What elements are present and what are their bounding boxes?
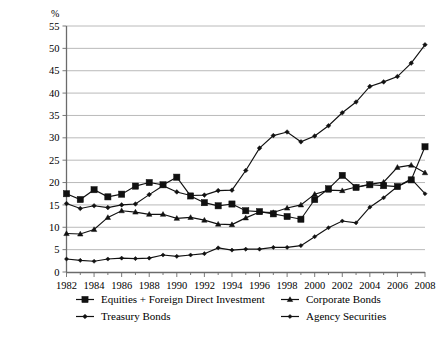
- data-marker-square: [422, 144, 428, 150]
- y-tick-label: 55: [49, 21, 60, 32]
- data-marker-square: [146, 179, 152, 185]
- x-tick-label: 2002: [332, 280, 353, 291]
- data-marker-square: [82, 296, 88, 302]
- data-marker-square: [229, 201, 235, 207]
- y-tick-label: 15: [49, 200, 60, 211]
- legend-item-label: Treasury Bonds: [101, 310, 171, 322]
- y-tick-label: 5: [54, 244, 59, 255]
- y-tick-label: 25: [49, 155, 60, 166]
- legend-item[interactable]: Equities + Foreign Direct Investment: [76, 293, 265, 305]
- x-tick-label: 1990: [166, 280, 187, 291]
- x-tick-label: 1986: [111, 280, 132, 291]
- x-tick-label: 1998: [277, 280, 298, 291]
- chart-container: % 0510152025303540455055 198219841986198…: [0, 0, 440, 340]
- x-tick-label: 2000: [304, 280, 325, 291]
- y-tick-label: 10: [49, 222, 60, 233]
- data-marker-square: [77, 196, 83, 202]
- data-marker-square: [215, 203, 221, 209]
- y-tick-label: 50: [49, 43, 60, 54]
- data-marker-square: [174, 174, 180, 180]
- legend-item-label: Agency Securities: [306, 310, 386, 322]
- data-marker-square: [91, 187, 97, 193]
- data-marker-square: [132, 183, 138, 189]
- data-marker-square: [298, 216, 304, 222]
- x-tick-label: 1992: [194, 280, 215, 291]
- y-tick-label: 40: [49, 88, 60, 99]
- data-marker-square: [63, 191, 69, 197]
- y-tick-label: 20: [49, 177, 60, 188]
- data-marker-square: [243, 208, 249, 214]
- x-tick-label: 1988: [139, 280, 160, 291]
- line-chart: % 0510152025303540455055 198219841986198…: [0, 0, 440, 340]
- y-tick-label: 45: [49, 65, 60, 76]
- data-marker-square: [284, 213, 290, 219]
- legend-item-label: Corporate Bonds: [306, 293, 381, 305]
- x-tick-label: 2006: [387, 280, 408, 291]
- data-marker-square: [119, 191, 125, 197]
- x-tick-label: 2008: [415, 280, 436, 291]
- y-tick-label: 30: [49, 132, 60, 143]
- x-tick-label: 2004: [359, 280, 381, 291]
- data-marker-square: [105, 194, 111, 200]
- x-tick-label: 1996: [249, 280, 270, 291]
- x-tick-label: 1984: [84, 280, 106, 291]
- legend-item-label: Equities + Foreign Direct Investment: [101, 293, 265, 305]
- data-marker-square: [339, 172, 345, 178]
- y-tick-label: 35: [49, 110, 60, 121]
- x-tick-label: 1982: [56, 280, 77, 291]
- x-tick-label: 1994: [221, 280, 243, 291]
- y-tick-label: 0: [54, 267, 59, 278]
- y-axis-unit-label: %: [51, 8, 59, 19]
- data-marker-square: [201, 200, 207, 206]
- data-marker-square: [312, 196, 318, 202]
